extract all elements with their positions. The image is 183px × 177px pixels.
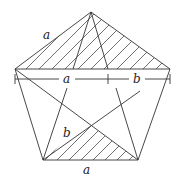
bottom-triangle-hatching xyxy=(40,110,183,165)
label-dimension-b: b xyxy=(133,72,141,86)
apex-inner-line xyxy=(73,12,91,69)
label-inner-b: b xyxy=(63,126,71,140)
diagonal-left-to-bottom-right xyxy=(15,69,138,160)
label-top-left-side: a xyxy=(43,28,50,42)
line-bottom-right-up xyxy=(116,88,138,160)
pentagon-diagram: a a b b a xyxy=(0,0,183,177)
label-dimension-a: a xyxy=(63,72,70,86)
label-bottom-side: a xyxy=(83,163,90,177)
dimension-line xyxy=(15,74,170,84)
